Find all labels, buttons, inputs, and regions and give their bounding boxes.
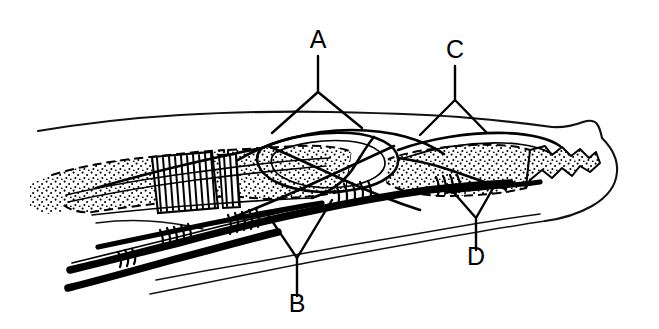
label-a-text: A bbox=[310, 25, 327, 53]
label-d-text: D bbox=[467, 242, 485, 270]
fingertip-dorsal-line bbox=[552, 121, 602, 138]
label-b-text: B bbox=[289, 289, 306, 317]
label-c-group[interactable]: C bbox=[420, 35, 487, 135]
anatomy-line-drawing: A C B D bbox=[0, 0, 659, 329]
label-c-text: C bbox=[446, 35, 464, 63]
figure-canvas: A C B D bbox=[0, 0, 659, 329]
label-a-group[interactable]: A bbox=[272, 25, 362, 133]
label-c-leader bbox=[420, 66, 487, 135]
proximal-bone-spill bbox=[30, 176, 62, 214]
label-a-leader bbox=[272, 56, 362, 133]
